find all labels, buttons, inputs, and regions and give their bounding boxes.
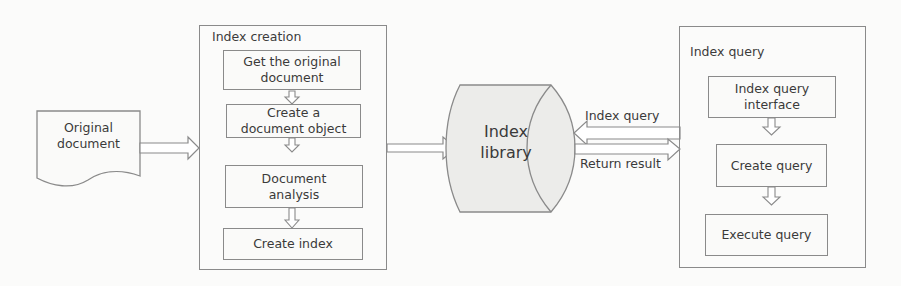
index-creation-title: Index creation bbox=[212, 29, 301, 44]
arrow-index-query bbox=[574, 121, 680, 145]
original-document-label: Original document bbox=[37, 120, 140, 153]
return-result-connector-label: Return result bbox=[580, 156, 661, 172]
index-query-connector-label: Index query bbox=[585, 108, 659, 124]
index-query-title: Index query bbox=[690, 44, 764, 59]
step-get-original-document: Get the original document bbox=[223, 50, 361, 90]
step-create-document-object: Create a document object bbox=[226, 104, 361, 138]
step-index-query-interface: Index query interface bbox=[708, 76, 836, 118]
arrow-doc-to-creation bbox=[140, 137, 199, 159]
index-library-label: Index library bbox=[478, 122, 534, 164]
step-execute-query: Execute query bbox=[705, 214, 828, 256]
step-create-query: Create query bbox=[716, 144, 827, 187]
step-create-index: Create index bbox=[223, 228, 363, 260]
step-document-analysis: Document analysis bbox=[225, 165, 363, 208]
